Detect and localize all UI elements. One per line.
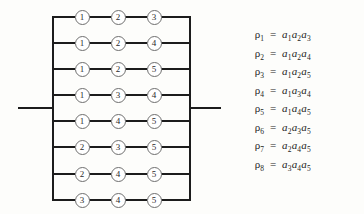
branch-wire [89,173,111,175]
branch-wire [161,94,190,96]
equation-operator: = [264,28,282,40]
equation-rhs: a1a2a5 [282,65,311,77]
equation-row: ρ4=a1a3a4 [238,84,364,103]
equation-row: ρ7=a2a4a5 [238,139,364,158]
branch-wire [125,173,147,175]
circuit-node: 1 [75,36,90,51]
equation-row: ρ1=a1a2a3 [238,28,364,47]
equation-operator: = [264,84,282,96]
branch-wire [89,68,111,70]
circuit-node: 5 [147,193,162,208]
circuit-node: 1 [75,10,90,25]
circuit-node: 4 [111,114,126,129]
equation-rhs: a2a4a5 [282,139,311,151]
right-terminal-lead [190,107,221,109]
circuit-node: 3 [147,10,162,25]
branch-wire [53,94,75,96]
circuit-node: 3 [111,88,126,103]
branch-wire [89,94,111,96]
branch-wire [161,16,190,18]
circuit-node: 5 [147,62,162,77]
equation-lhs: ρ3 [238,65,264,77]
circuit-node: 4 [111,193,126,208]
branch-wire [125,146,147,148]
circuit-node: 4 [147,36,162,51]
branch-wire [53,120,75,122]
figure-container: 123124125134145235245345 ρ1=a1a2a3ρ2=a1a… [0,0,364,214]
circuit-node: 1 [75,88,90,103]
branch-wire [161,199,190,201]
branch-wire [53,68,75,70]
equation-row: ρ3=a1a2a5 [238,65,364,84]
circuit-node: 5 [147,114,162,129]
equation-rhs: a1a2a4 [282,47,311,59]
equation-rhs: a1a4a5 [282,102,311,114]
branch-wire [161,120,190,122]
branch-wire [89,16,111,18]
equation-lhs: ρ6 [238,121,264,133]
circuit-node: 5 [147,140,162,155]
equation-rhs: a3a4a5 [282,158,311,170]
circuit-node: 2 [75,167,90,182]
circuit-node: 4 [111,167,126,182]
equation-operator: = [264,139,282,151]
circuit-node: 3 [75,193,90,208]
equation-rhs: a2a3a5 [282,121,311,133]
equation-lhs: ρ7 [238,139,264,151]
circuit-node: 2 [111,62,126,77]
circuit-node: 5 [147,167,162,182]
branch-wire [161,42,190,44]
branch-wire [161,173,190,175]
branch-wire [89,199,111,201]
branch-wire [53,173,75,175]
equation-rhs: a1a2a3 [282,28,311,40]
branch-wire [125,16,147,18]
equation-row: ρ5=a1a4a5 [238,102,364,121]
circuit-node: 2 [75,140,90,155]
circuit-node: 3 [111,140,126,155]
equation-operator: = [264,121,282,133]
equation-row: ρ6=a2a3a5 [238,121,364,140]
circuit-node: 2 [111,36,126,51]
branch-wire [53,42,75,44]
branch-wire [53,199,75,201]
branch-wire [125,42,147,44]
branch-wire [125,68,147,70]
equation-lhs: ρ2 [238,47,264,59]
equation-operator: = [264,65,282,77]
circuit-node: 1 [75,62,90,77]
branch-wire [89,120,111,122]
branch-wire [53,146,75,148]
circuit-node: 2 [111,10,126,25]
equation-lhs: ρ1 [238,28,264,40]
branch-wire [125,94,147,96]
branch-wire [125,120,147,122]
equation-rhs: a1a3a4 [282,84,311,96]
equation-lhs: ρ8 [238,158,264,170]
left-terminal-lead [18,107,53,109]
circuit-node: 4 [147,88,162,103]
equation-operator: = [264,158,282,170]
branch-wire [161,68,190,70]
branch-wire [161,146,190,148]
circuit-node: 1 [75,114,90,129]
equation-operator: = [264,47,282,59]
circuit-diagram: 123124125134145235245345 [0,0,240,214]
equation-operator: = [264,102,282,114]
equation-row: ρ8=a3a4a5 [238,158,364,177]
equation-lhs: ρ5 [238,102,264,114]
branch-wire [89,146,111,148]
equation-lhs: ρ4 [238,84,264,96]
branch-wire [53,16,75,18]
branch-wire [89,42,111,44]
equation-list: ρ1=a1a2a3ρ2=a1a2a4ρ3=a1a2a5ρ4=a1a3a4ρ5=a… [238,28,364,176]
branch-wire [125,199,147,201]
equation-row: ρ2=a1a2a4 [238,47,364,66]
